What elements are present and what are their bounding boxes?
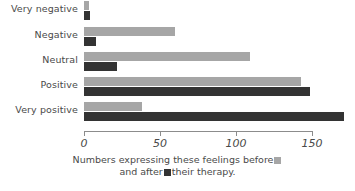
category-row-positive: Positive [0, 76, 355, 101]
plot-area: Very negative Negative Neutral Positive [0, 0, 355, 133]
category-label: Very positive [0, 104, 78, 115]
x-axis-tick-label: 150 [302, 137, 323, 150]
x-axis-tick [84, 131, 85, 136]
legend-swatch-before-icon [274, 157, 281, 164]
bar-before [84, 1, 89, 10]
bar-after [84, 62, 117, 71]
x-axis-tick-label: 0 [81, 137, 88, 150]
category-row-very-negative: Very negative [0, 0, 355, 25]
caption-line-1: Numbers expressing these feelings before [0, 154, 355, 166]
caption-text-suffix: their therapy. [172, 166, 236, 177]
category-label: Negative [0, 29, 78, 40]
category-row-very-positive: Very positive [0, 101, 355, 126]
caption-text-before: Numbers expressing these feelings before [73, 154, 274, 165]
x-axis-tick [236, 131, 237, 136]
bar-before [84, 27, 175, 36]
caption-line-2: and aftertheir therapy. [0, 166, 355, 178]
bar-after [84, 112, 344, 121]
x-axis-tick-label: 50 [153, 137, 167, 150]
caption-text-after: and after [119, 166, 162, 177]
bar-after [84, 37, 96, 46]
x-axis-line [84, 131, 312, 132]
category-label: Very negative [0, 3, 78, 14]
x-axis-tick-label: 100 [226, 137, 247, 150]
horizontal-bar-chart: Very negative Negative Neutral Positive [0, 0, 355, 191]
category-label: Positive [0, 79, 78, 90]
bar-after [84, 87, 310, 96]
bar-after [84, 11, 90, 20]
bar-before [84, 52, 250, 61]
bar-before [84, 102, 142, 111]
x-axis-tick [312, 131, 313, 136]
legend-swatch-after-icon [164, 169, 171, 176]
bar-before [84, 77, 301, 86]
x-axis-tick [160, 131, 161, 136]
category-label: Neutral [0, 54, 78, 65]
category-row-negative: Negative [0, 26, 355, 51]
category-row-neutral: Neutral [0, 51, 355, 76]
chart-caption: Numbers expressing these feelings before… [0, 154, 355, 178]
